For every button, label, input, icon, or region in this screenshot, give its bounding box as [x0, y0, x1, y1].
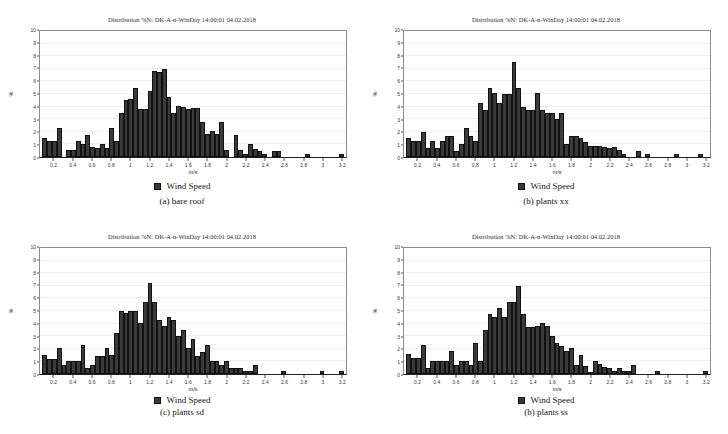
x-axis-tick-mark — [342, 158, 343, 161]
x-axis-tick-label: 2 — [225, 162, 228, 168]
x-axis-tick-label: 2.4 — [626, 379, 633, 385]
x-axis-tick-mark — [226, 375, 227, 378]
y-axis-tick-mark — [37, 30, 40, 31]
plot-frame — [39, 247, 347, 375]
x-axis-tick-mark — [322, 375, 323, 378]
x-axis-tick-label: 0.2 — [50, 379, 57, 385]
y-axis-tick-mark — [401, 145, 404, 146]
y-axis-tick-label: 10 — [394, 27, 400, 33]
x-axis-tick-label: 1.2 — [146, 379, 153, 385]
histogram-bar — [703, 371, 708, 374]
x-axis-tick-mark — [149, 375, 150, 378]
x-axis-tick-mark — [436, 158, 437, 161]
x-axis-tick-mark — [265, 158, 266, 161]
y-axis-tick-mark — [37, 132, 40, 133]
y-axis-tick-mark — [401, 68, 404, 69]
y-axis-tick-mark — [37, 362, 40, 363]
legend-label: Wind Speed — [531, 395, 575, 405]
x-axis-tick-mark — [188, 375, 189, 378]
plot-area-a: % 0123456789100.20.40.60.811.21.41.61.82… — [39, 30, 347, 158]
legend-swatch-icon — [154, 183, 161, 190]
x-axis-tick-label: 0.6 — [452, 162, 459, 168]
x-axis-tick-label: 0.4 — [433, 379, 440, 385]
x-axis-tick-mark — [168, 158, 169, 161]
y-axis-tick-mark — [37, 55, 40, 56]
x-axis-tick-label: 3.2 — [339, 162, 346, 168]
y-axis-tick-label: 10 — [30, 244, 36, 250]
histogram-bar — [698, 154, 703, 157]
y-axis-tick-mark — [401, 375, 404, 376]
legend-label: Wind Speed — [531, 181, 575, 191]
x-axis-tick-mark — [111, 158, 112, 161]
y-axis-tick-mark — [37, 158, 40, 159]
x-axis-tick-mark — [571, 375, 572, 378]
chart-title: Distribution %N: DK-A-n-WinDay 14:00:01 … — [0, 16, 364, 23]
x-axis-tick-label: 1.2 — [146, 162, 153, 168]
y-axis-tick-mark — [37, 119, 40, 120]
y-axis-tick-label: 10 — [30, 27, 36, 33]
plot-area-d: % 0123456789100.20.40.60.811.21.41.61.82… — [403, 247, 711, 375]
x-axis-tick-label: 0.2 — [414, 162, 421, 168]
histogram-bar — [645, 154, 650, 157]
panel-caption: (b) plants xx — [364, 196, 728, 206]
x-axis-tick-mark — [532, 375, 533, 378]
x-axis-tick-label: 1 — [129, 379, 132, 385]
legend-label: Wind Speed — [167, 181, 211, 191]
y-axis-tick-mark — [37, 145, 40, 146]
x-axis-tick-mark — [303, 158, 304, 161]
x-axis-tick-label: 2.6 — [645, 379, 652, 385]
y-axis-title: % — [372, 309, 378, 314]
x-axis-tick-mark — [629, 375, 630, 378]
y-axis-tick-mark — [37, 259, 40, 260]
y-axis-tick-mark — [401, 119, 404, 120]
histogram-bar — [674, 154, 679, 157]
chart-title: Distribution %N: DK-A-n-WinDay 14:00:01 … — [364, 233, 728, 240]
histogram-bar — [281, 371, 286, 374]
x-axis-title: m/s — [39, 169, 347, 175]
x-axis-tick-label: 2.6 — [281, 162, 288, 168]
histogram-bar — [339, 371, 344, 374]
chart-title: Distribution %N: DK-A-n-WinDay 14:00:01 … — [0, 233, 364, 240]
x-axis-tick-label: 2.2 — [242, 162, 249, 168]
y-axis-tick-mark — [37, 311, 40, 312]
legend-label: Wind Speed — [167, 395, 211, 405]
bar-series — [404, 31, 710, 157]
x-axis-tick-label: 0.6 — [452, 379, 459, 385]
x-axis-tick-label: 1.8 — [568, 379, 575, 385]
x-axis-tick-label: 0.8 — [108, 379, 115, 385]
x-axis-tick-mark — [188, 158, 189, 161]
panel-caption: (a) bare roof — [0, 196, 364, 206]
y-axis-tick-mark — [401, 158, 404, 159]
x-axis-tick-mark — [686, 158, 687, 161]
y-axis-tick-mark — [401, 106, 404, 107]
x-axis-tick-mark — [648, 158, 649, 161]
x-axis-tick-label: 3.2 — [339, 379, 346, 385]
x-axis-tick-label: 2.4 — [262, 162, 269, 168]
x-axis-tick-label: 1 — [493, 162, 496, 168]
y-axis-title: % — [372, 92, 378, 97]
y-axis-tick-mark — [401, 259, 404, 260]
histogram-bar — [655, 371, 660, 374]
x-axis-tick-mark — [342, 375, 343, 378]
x-axis-tick-mark — [609, 158, 610, 161]
x-axis-tick-label: 1.8 — [204, 379, 211, 385]
x-axis-tick-mark — [72, 158, 73, 161]
y-axis-tick-mark — [401, 311, 404, 312]
x-axis-tick-mark — [130, 375, 131, 378]
y-axis-tick-mark — [37, 42, 40, 43]
x-axis-tick-mark — [667, 375, 668, 378]
histogram-bar — [57, 128, 62, 157]
y-axis-tick-mark — [401, 362, 404, 363]
x-axis-tick-label: 0.6 — [88, 379, 95, 385]
x-axis-tick-mark — [494, 158, 495, 161]
y-axis-tick-mark — [401, 247, 404, 248]
x-axis-tick-label: 1.6 — [185, 162, 192, 168]
x-axis-tick-label: 1.4 — [165, 379, 172, 385]
x-axis-tick-label: 3 — [686, 162, 689, 168]
legend: Wind Speed — [364, 395, 728, 405]
x-axis-tick-mark — [552, 375, 553, 378]
plot-frame — [39, 30, 347, 158]
x-axis-tick-label: 2.4 — [626, 162, 633, 168]
chart-title: Distribution %N: DK-A-n-WinDay 14:00:01 … — [364, 16, 728, 23]
x-axis-tick-label: 2 — [225, 379, 228, 385]
